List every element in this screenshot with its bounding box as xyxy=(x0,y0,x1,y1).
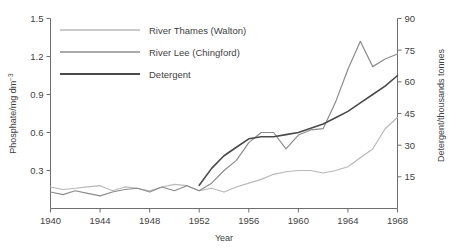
y-axis-left-ticks: 0.30.60.91.21.5 xyxy=(30,13,50,176)
y-axis-right-tick-label: 15 xyxy=(405,171,416,182)
y-axis-left-tick-label: 0.6 xyxy=(30,127,43,138)
legend-label: River Thames (Walton) xyxy=(149,25,246,36)
x-axis-tick-label: 1940 xyxy=(40,215,61,226)
y-axis-right-title: Detergent/thousands tonnes xyxy=(436,48,446,162)
legend-label: Detergent xyxy=(149,69,191,80)
chart-canvas: 0.30.60.91.21.5 153045607590 19401944194… xyxy=(0,0,456,251)
series-line xyxy=(51,41,398,196)
y-axis-left-tick-label: 0.9 xyxy=(30,89,43,100)
x-axis-tick-label: 1948 xyxy=(139,215,160,226)
legend-label: River Lee (Chingford) xyxy=(149,47,240,58)
y-axis-left-tick-label: 1.5 xyxy=(30,13,43,24)
y-axis-left-tick-label: 0.3 xyxy=(30,165,43,176)
x-axis-tick-label: 1952 xyxy=(189,215,210,226)
x-axis-tick-label: 1944 xyxy=(90,215,111,226)
x-axis-tick-label: 1968 xyxy=(387,215,408,226)
y-axis-right-ticks: 153045607590 xyxy=(398,13,416,182)
y-axis-left-tick-label: 1.2 xyxy=(30,51,43,62)
y-axis-right-tick-label: 90 xyxy=(405,13,416,24)
x-axis-title: Year xyxy=(215,233,233,243)
svg-text:Phosphate/mg dm−3: Phosphate/mg dm−3 xyxy=(7,73,18,154)
y-axis-right-tick-label: 30 xyxy=(405,140,416,151)
series-line xyxy=(51,117,398,192)
x-axis-tick-label: 1964 xyxy=(337,215,358,226)
x-axis-tick-label: 1960 xyxy=(288,215,309,226)
data-series-layer xyxy=(51,41,398,196)
y-axis-right-tick-label: 45 xyxy=(405,108,416,119)
y-axis-left-title: Phosphate/mg dm−3 xyxy=(7,73,18,154)
y-axis-left-title-text: Phosphate/mg dm xyxy=(8,81,18,154)
series-line xyxy=(199,76,397,186)
x-axis-ticks: 19401944194819521956196019641968 xyxy=(40,209,408,226)
x-axis-tick-label: 1956 xyxy=(238,215,259,226)
y-axis-right-tick-label: 60 xyxy=(405,76,416,87)
chart-legend: River Thames (Walton)River Lee (Chingfor… xyxy=(60,25,246,80)
phosphate-detergent-chart: 0.30.60.91.21.5 153045607590 19401944194… xyxy=(0,0,456,251)
y-axis-right-tick-label: 75 xyxy=(405,45,416,56)
y-axis-left-title-superscript: −3 xyxy=(7,73,14,81)
